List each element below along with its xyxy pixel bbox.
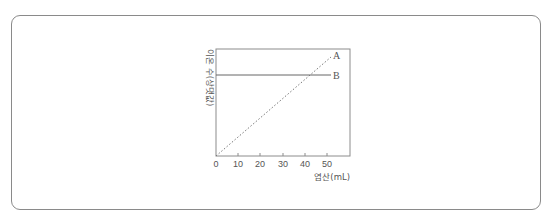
y-axis-title: 이온 수(상댓값) — [205, 49, 215, 106]
series-a-label: A — [333, 50, 341, 61]
x-axis-title: 염산(mL) — [314, 172, 350, 182]
x-tick-20: 20 — [255, 159, 265, 169]
x-tick-40: 40 — [300, 159, 310, 169]
x-tick-50: 50 — [322, 159, 332, 169]
plot-area — [216, 49, 350, 156]
series-a-line — [216, 57, 331, 156]
chart: A B 0 10 20 30 40 50 염산(mL) 이온 수(상댓값) — [0, 0, 552, 220]
x-tick-30: 30 — [278, 159, 288, 169]
x-tick-0: 0 — [213, 159, 218, 169]
series-b-label: B — [333, 70, 340, 81]
x-tick-10: 10 — [233, 159, 243, 169]
